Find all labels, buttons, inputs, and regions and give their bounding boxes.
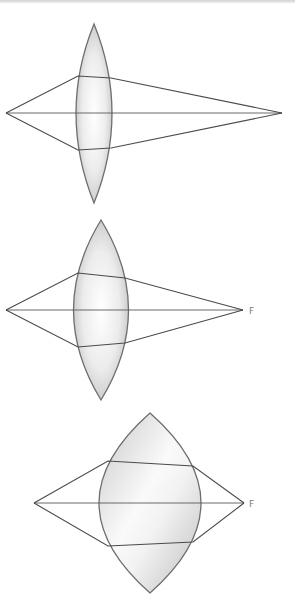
- upper-ray: [6, 76, 282, 113]
- thick-lens-diagram: F: [34, 413, 254, 593]
- lens-diagram-canvas: F F: [0, 0, 295, 605]
- lower-ray: [6, 113, 282, 150]
- thin-lens-diagram: [6, 24, 282, 203]
- focal-point-label: F: [249, 306, 254, 316]
- medium-lens-diagram: F: [6, 220, 254, 400]
- focal-point-label: F: [249, 499, 254, 509]
- thin-lens: [76, 24, 112, 203]
